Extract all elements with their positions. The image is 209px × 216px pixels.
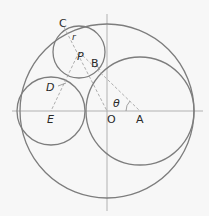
theta-arc	[126, 101, 130, 111]
dashed-line-P-A	[79, 52, 140, 111]
label-O: O	[107, 114, 116, 125]
label-B: B	[91, 58, 99, 69]
tangent-circles-diagram: C r P B D θ E O A	[0, 0, 209, 216]
label-P: P	[77, 51, 84, 62]
pointer-D	[58, 83, 66, 86]
label-A: A	[136, 114, 144, 125]
label-theta: θ	[113, 98, 120, 109]
dashed-line-C-O	[64, 27, 107, 111]
label-r: r	[72, 33, 76, 42]
label-E: E	[47, 114, 54, 125]
label-D: D	[46, 82, 54, 93]
diagram-svg	[0, 0, 209, 216]
label-C: C	[59, 18, 67, 29]
